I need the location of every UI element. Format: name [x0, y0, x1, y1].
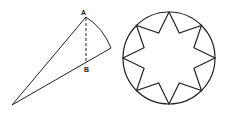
edge-tip-to-a	[12, 17, 86, 105]
star-in-circle-figure	[123, 12, 215, 104]
cone-section-figure	[12, 17, 111, 105]
eight-point-star	[123, 12, 215, 104]
label-b: B	[84, 66, 89, 73]
label-a: A	[81, 9, 86, 16]
arc-a-to-right	[86, 17, 111, 48]
edge-right-to-tip	[12, 48, 111, 105]
diagram-canvas: A B	[0, 0, 229, 121]
